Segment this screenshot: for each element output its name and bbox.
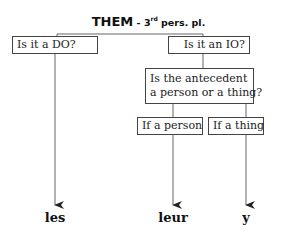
diagram-title: THEM - 3rd pers. pl. (0, 14, 297, 29)
if-thing-box: If a thing (208, 117, 264, 135)
result-leur: leur (148, 210, 198, 225)
if-person-label: If a person (142, 119, 202, 132)
do-question-box: Is it a DO? (12, 36, 98, 54)
result-les: les (30, 210, 80, 225)
pronoun-decision-diagram: THEM - 3rd pers. pl. Is it a DO? Is it a… (0, 0, 297, 241)
title-main: THEM (92, 14, 134, 29)
io-question-label: Is it an IO? (184, 38, 245, 51)
title-rest: pers. pl. (158, 17, 205, 28)
antecedent-question-box: Is the antecedent a person or a thing? (145, 68, 254, 104)
antecedent-line-1: Is the antecedent (150, 72, 249, 86)
title-ordinal: 3 (144, 17, 151, 28)
title-separator: - (133, 17, 144, 28)
io-question-box: Is it an IO? (168, 36, 250, 54)
if-person-box: If a person (137, 117, 203, 135)
title-ordinal-suffix: rd (151, 15, 158, 22)
antecedent-line-2: a person or a thing? (150, 86, 249, 100)
result-y: y (221, 210, 271, 225)
if-thing-label: If a thing (213, 119, 264, 132)
do-question-label: Is it a DO? (17, 38, 76, 51)
